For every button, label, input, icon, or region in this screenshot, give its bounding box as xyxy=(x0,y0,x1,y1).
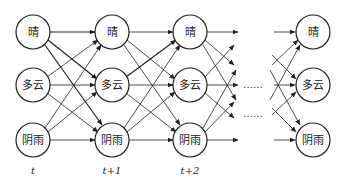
node-sunny-tn: 晴 xyxy=(308,26,319,39)
hmm-trellis-diagram: …… …… 晴 多云 阴雨 t 晴 多云 阴雨 t+1 晴 多云 阴雨 t+2 … xyxy=(0,0,344,186)
time-label-t1: t+1 xyxy=(103,165,122,176)
node-rainy-t2: 阴雨 xyxy=(179,134,201,147)
node-rainy-t1: 阴雨 xyxy=(101,134,123,147)
column-t: 晴 多云 阴雨 t xyxy=(16,15,50,176)
node-cloudy-t: 多云 xyxy=(22,78,44,92)
time-label-t2: t+2 xyxy=(181,165,200,176)
column-t-n: 晴 多云 阴雨 xyxy=(296,15,330,157)
node-sunny-t: 晴 xyxy=(28,26,39,39)
node-cloudy-tn: 多云 xyxy=(302,78,324,92)
node-rainy-tn: 阴雨 xyxy=(302,134,324,147)
column-t-plus-2: 晴 多云 阴雨 t+2 xyxy=(173,15,207,176)
time-label-t: t xyxy=(31,165,36,176)
node-cloudy-t1: 多云 xyxy=(101,78,123,92)
node-cloudy-t2: 多云 xyxy=(179,78,201,92)
ellipsis-lower: …… xyxy=(243,108,263,119)
node-sunny-t2: 晴 xyxy=(185,26,196,39)
ellipsis-upper: …… xyxy=(243,79,263,90)
node-rainy-t: 阴雨 xyxy=(22,134,44,147)
node-sunny-t1: 晴 xyxy=(107,26,118,39)
column-t-plus-1: 晴 多云 阴雨 t+1 xyxy=(95,15,129,176)
